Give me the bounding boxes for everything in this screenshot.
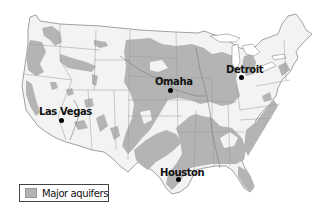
city-label-las-vegas: Las Vegas [39, 106, 92, 117]
city-dot-las-vegas [59, 118, 64, 123]
map-legend: Major aquifers [19, 184, 109, 202]
city-dot-omaha [168, 88, 173, 93]
city-label-omaha: Omaha [155, 76, 193, 87]
city-label-detroit: Detroit [226, 64, 263, 75]
city-dot-detroit [239, 75, 244, 80]
city-dot-houston [176, 177, 181, 182]
legend-label: Major aquifers [42, 188, 108, 199]
city-label-houston: Houston [160, 167, 204, 178]
legend-swatch-aquifer [25, 188, 37, 198]
